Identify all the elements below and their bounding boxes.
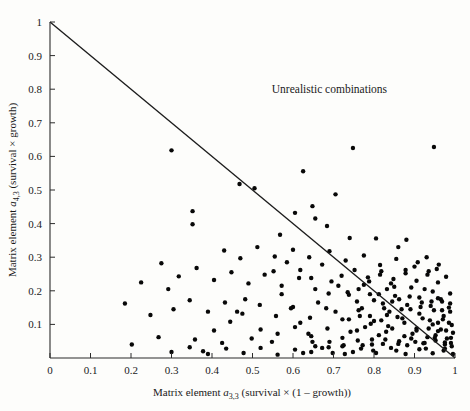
- data-point: [356, 287, 360, 291]
- data-point: [339, 273, 343, 277]
- data-point: [410, 332, 414, 336]
- data-point: [363, 325, 367, 329]
- data-point: [368, 292, 372, 296]
- data-point: [340, 336, 344, 340]
- data-point: [391, 277, 395, 281]
- data-point: [362, 253, 366, 257]
- data-point: [396, 245, 400, 249]
- data-point: [330, 351, 334, 355]
- data-point: [123, 301, 127, 305]
- data-point: [224, 346, 228, 350]
- y-tick-label: 0.6: [28, 150, 42, 162]
- data-point: [385, 287, 389, 291]
- data-point: [414, 279, 418, 283]
- data-point: [440, 308, 444, 312]
- data-point: [426, 269, 430, 273]
- x-tick-label: 0.6: [286, 364, 300, 376]
- data-point: [393, 294, 397, 298]
- data-point: [329, 279, 333, 283]
- data-point: [279, 292, 283, 296]
- data-point: [229, 270, 233, 274]
- data-point: [190, 209, 194, 213]
- data-point: [429, 304, 433, 308]
- data-point: [409, 336, 413, 340]
- data-point: [371, 348, 375, 352]
- data-point: [450, 323, 454, 327]
- x-tick-label: 0.9: [408, 364, 422, 376]
- data-point: [392, 285, 396, 289]
- data-point: [366, 275, 370, 279]
- data-point: [220, 341, 224, 345]
- x-tick-label: 0.2: [124, 364, 138, 376]
- data-point: [367, 279, 371, 283]
- data-point: [428, 318, 432, 322]
- data-point: [417, 311, 421, 315]
- data-point: [320, 346, 324, 350]
- data-point: [390, 326, 394, 330]
- data-point: [298, 321, 302, 325]
- data-point: [445, 336, 449, 340]
- data-point: [348, 330, 352, 334]
- data-point: [307, 255, 311, 259]
- data-point: [382, 306, 386, 310]
- x-tick-label: 1: [452, 364, 458, 376]
- data-point: [270, 340, 274, 344]
- data-point: [404, 238, 408, 242]
- data-point: [351, 350, 355, 354]
- data-point: [448, 309, 452, 313]
- data-point: [403, 268, 407, 272]
- data-point: [241, 351, 245, 355]
- x-tick-label: 0: [47, 364, 53, 376]
- data-point: [148, 313, 152, 317]
- data-point: [156, 335, 160, 339]
- data-point: [431, 322, 435, 326]
- data-point: [293, 211, 297, 215]
- data-point: [343, 258, 347, 262]
- data-point: [370, 342, 374, 346]
- data-point: [394, 348, 398, 352]
- data-point: [308, 315, 312, 319]
- data-point: [403, 352, 407, 356]
- data-point: [206, 309, 210, 313]
- x-tick-label: 0.4: [205, 364, 219, 376]
- y-tick-label: 1: [37, 16, 43, 28]
- data-point: [130, 342, 134, 346]
- data-point: [414, 328, 418, 332]
- data-point: [351, 146, 355, 150]
- data-point: [306, 332, 310, 336]
- data-point: [240, 311, 244, 315]
- data-point: [347, 317, 351, 321]
- data-point: [417, 347, 421, 351]
- data-point: [223, 300, 227, 304]
- data-point: [378, 272, 382, 276]
- data-point: [420, 300, 424, 304]
- data-point: [316, 300, 320, 304]
- x-tick-label: 0.8: [367, 364, 381, 376]
- data-point: [447, 305, 451, 309]
- data-point: [301, 169, 305, 173]
- y-tick-label: 0.9: [28, 50, 42, 62]
- data-point: [340, 344, 344, 348]
- y-axis-ticks: 0.10.20.30.40.50.60.70.80.91: [28, 16, 55, 330]
- data-point: [381, 342, 385, 346]
- data-point: [413, 340, 417, 344]
- data-point: [390, 299, 394, 303]
- x-axis-ticks: 00.10.20.30.40.50.60.70.80.91: [47, 353, 458, 376]
- data-point: [443, 340, 447, 344]
- data-point: [293, 325, 297, 329]
- data-point: [275, 352, 279, 356]
- data-point: [421, 341, 425, 345]
- data-point: [420, 316, 424, 320]
- data-point: [324, 306, 328, 310]
- data-point: [273, 254, 277, 258]
- data-point: [448, 291, 452, 295]
- data-point: [320, 262, 324, 266]
- data-point: [243, 297, 247, 301]
- data-point: [235, 309, 239, 313]
- data-point: [408, 307, 412, 311]
- x-tick-label: 0.5: [246, 364, 260, 376]
- data-point: [381, 301, 385, 305]
- data-point: [212, 278, 216, 282]
- data-point: [291, 248, 295, 252]
- data-point: [258, 303, 262, 307]
